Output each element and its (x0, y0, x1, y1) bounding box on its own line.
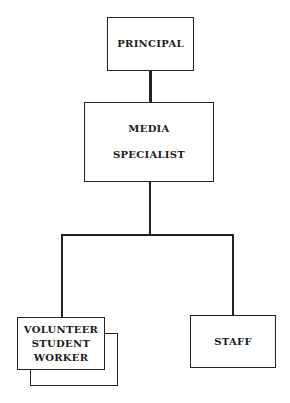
connector-media-down (149, 181, 151, 235)
volunteer-student-worker-box: VOLUNTEER STUDENT WORKER (17, 317, 105, 370)
volunteer-line3: WORKER (34, 353, 89, 363)
media-specialist-box: MEDIA SPECIALIST (84, 102, 214, 182)
staff-label: STAFF (214, 337, 252, 347)
connector-right-drop (232, 234, 234, 316)
connector-left-drop (61, 234, 63, 318)
media-specialist-line1: MEDIA (128, 124, 169, 134)
connector-principal-media (149, 70, 152, 103)
staff-box: STAFF (190, 315, 276, 368)
principal-label: PRINCIPAL (117, 39, 184, 49)
media-specialist-line2: SPECIALIST (113, 150, 185, 160)
volunteer-line1: VOLUNTEER (24, 325, 98, 335)
volunteer-line2: STUDENT (32, 339, 90, 349)
principal-box: PRINCIPAL (107, 17, 194, 71)
connector-horizontal-bar (61, 234, 233, 236)
